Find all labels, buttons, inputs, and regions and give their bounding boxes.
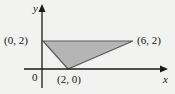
vertex-label-6-2: (6, 2) <box>137 35 161 46</box>
origin-label: 0 <box>32 72 38 83</box>
plot-canvas <box>0 0 175 94</box>
vertex-label-2-0: (2, 0) <box>57 74 81 85</box>
vertex-label-0-2: (0, 2) <box>4 35 28 46</box>
y-axis-arrow-icon <box>39 4 46 12</box>
y-axis-label: y <box>33 3 38 14</box>
math-figure-coordinate-plane: (0, 2) (6, 2) (2, 0) 0 y x <box>0 0 175 94</box>
triangle-region <box>43 41 133 69</box>
x-axis-label: x <box>163 74 168 85</box>
x-axis-arrow-icon <box>160 66 168 73</box>
